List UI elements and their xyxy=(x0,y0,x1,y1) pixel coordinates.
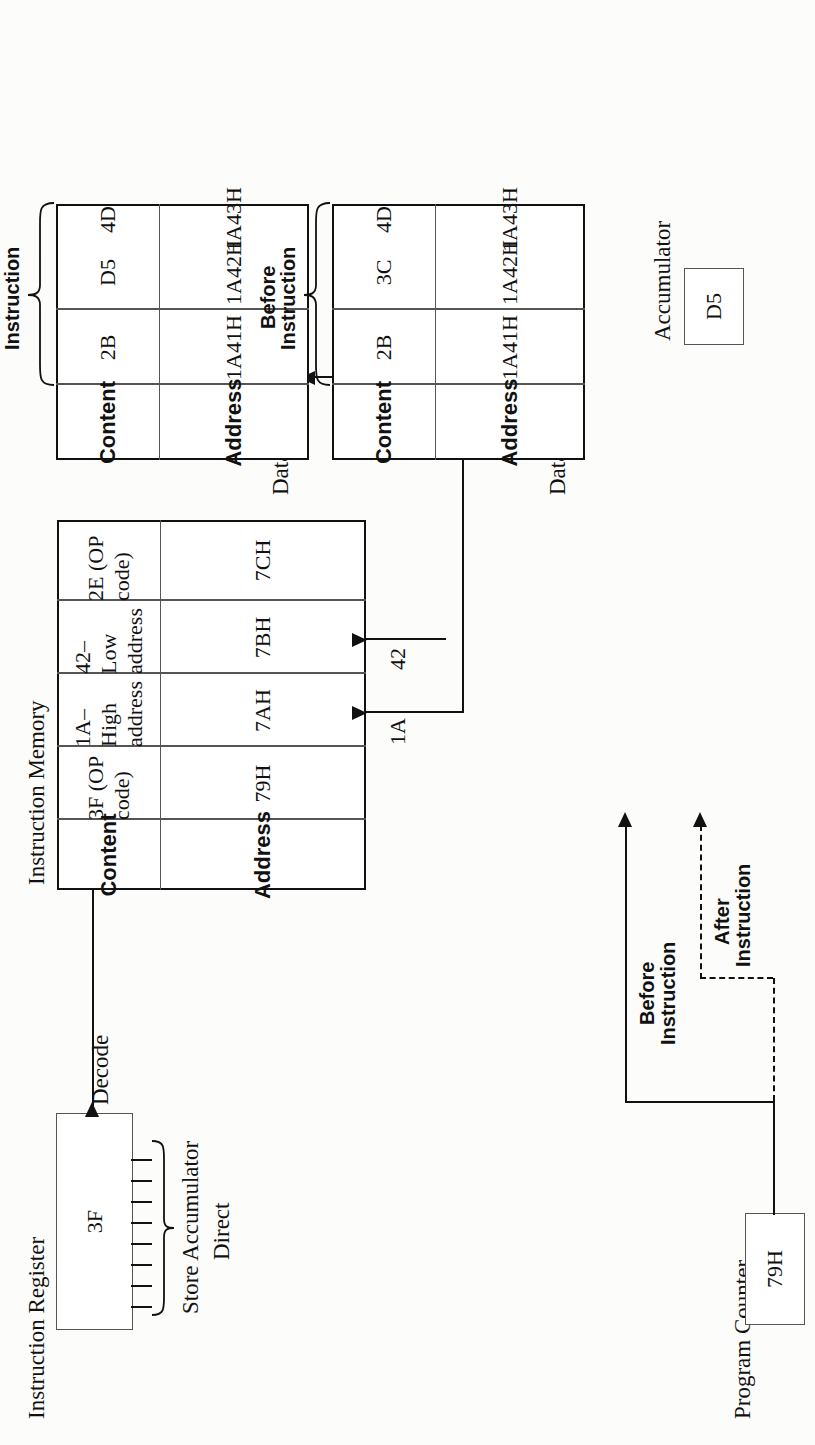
wire-pc-rise xyxy=(625,1101,775,1103)
decoded-instruction-line2: Direct xyxy=(209,1203,235,1260)
dmem-after-cell-content-2: 4D xyxy=(56,204,159,235)
wire-after-instruction xyxy=(700,825,702,979)
accumulator-before-title: Accumulator xyxy=(650,221,676,341)
wire-after-run xyxy=(773,978,775,1101)
wire-after-instruction-arrowhead xyxy=(693,812,707,827)
dmem-after-header-address: Address xyxy=(159,385,309,460)
imem-cell-content-3: 2E (OP code) xyxy=(57,520,160,601)
imem-cell-content-2: 42–Low address xyxy=(57,601,160,674)
diagram-canvas: Instruction Register 3F Decode Store Acc… xyxy=(0,0,815,1445)
dmem-after-cell-content-1: D5 xyxy=(56,235,159,310)
accumulator-before-box: D5 xyxy=(684,268,744,345)
data-memory-before-state-line1: Before xyxy=(258,266,279,329)
instruction-register-title: Instruction Register xyxy=(24,1237,50,1419)
program-counter-value: 79H xyxy=(762,1250,788,1288)
imem-header-content: Content xyxy=(57,820,160,890)
decode-brace xyxy=(150,1139,180,1317)
pointer-before-line1: Before xyxy=(637,962,658,1025)
pointer-after-line2: Instruction xyxy=(733,864,754,967)
dmem-after-cell-address-2: 1A43H xyxy=(159,204,309,235)
accumulator-before-value: D5 xyxy=(701,293,727,320)
imem-cell-address-1: 7AH xyxy=(160,674,366,747)
wire-after-rise xyxy=(700,977,773,979)
data-memory-after-state-line2: Instruction xyxy=(2,247,23,350)
pointer-after-line1: After xyxy=(712,898,733,945)
dmem-before-header-content: Content xyxy=(332,385,435,460)
imem-header-address: Address xyxy=(160,820,366,890)
data-memory-before-state-line2: Instruction xyxy=(278,247,299,350)
wire-high-address-arrowhead xyxy=(352,706,367,720)
wire-low-address xyxy=(366,638,446,640)
imem-cell-address-3: 7CH xyxy=(160,520,366,601)
data-memory-after-brace xyxy=(26,201,60,387)
imem-cell-content-0: 3F (OP code) xyxy=(57,747,160,820)
dmem-before-cell-content-1: 3C xyxy=(332,235,435,310)
data-memory-before-brace xyxy=(302,201,336,387)
decoded-instruction-line1: Store Accumulator xyxy=(178,1141,204,1314)
imem-cell-address-0: 79H xyxy=(160,747,366,820)
imem-cell-address-2: 7BH xyxy=(160,601,366,674)
dmem-before-header-address: Address xyxy=(435,385,585,460)
dmem-after-header-content: Content xyxy=(56,385,159,460)
wire-before-instruction xyxy=(625,825,627,1103)
wire-before-instruction-arrowhead xyxy=(618,812,632,827)
pointer-before-line2: Instruction xyxy=(658,942,679,1045)
dmem-before-cell-address-0: 1A41H xyxy=(435,310,585,385)
figure-page: Instruction Register 3F Decode Store Acc… xyxy=(0,0,815,1445)
wire-high-address xyxy=(366,711,464,713)
wire-pc-run xyxy=(773,1101,775,1215)
dmem-before-cell-content-2: 4D xyxy=(332,204,435,235)
bus-label-low-address: 42 xyxy=(385,648,411,670)
instruction-memory-title: Instruction Memory xyxy=(24,700,50,885)
instruction-register-value: 3F xyxy=(82,1210,108,1233)
dmem-before-cell-content-0: 2B xyxy=(332,310,435,385)
dmem-after-cell-content-0: 2B xyxy=(56,310,159,385)
bus-label-high-address: 1A xyxy=(385,718,411,745)
instruction-register-box: 3F xyxy=(56,1113,133,1330)
wire-low-address-arrowhead xyxy=(352,633,367,647)
dmem-before-cell-address-2: 1A43H xyxy=(435,204,585,235)
program-counter-box: 79H xyxy=(745,1213,805,1325)
imem-cell-content-1: 1A–High address xyxy=(57,674,160,747)
wire-imem-to-ir-2 xyxy=(92,889,94,1115)
